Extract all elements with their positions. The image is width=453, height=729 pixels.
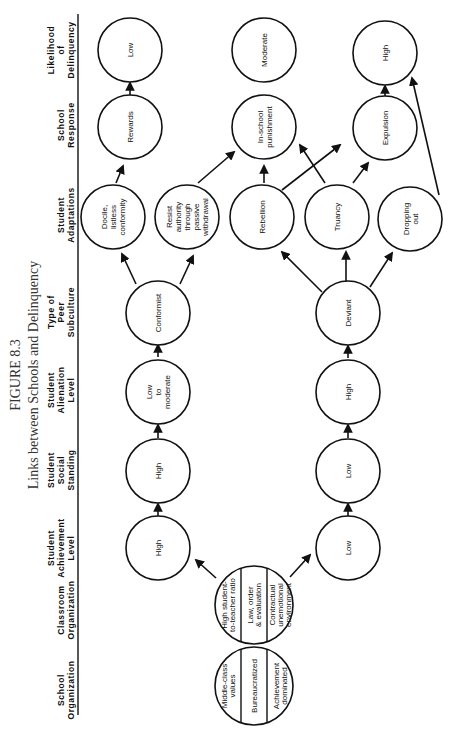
node-resp-expel: Expulsion bbox=[353, 96, 417, 160]
column-header-line: Student bbox=[46, 372, 56, 408]
column-header-line: Level bbox=[66, 378, 76, 403]
node-label: Rewards bbox=[126, 111, 135, 143]
figure-caption: Links between Schools and Delinquency bbox=[26, 261, 41, 490]
node-peer-dev: Deviant bbox=[316, 281, 380, 345]
node-adapt-resist: Resistauthoritythroughpassivewithdrawal bbox=[155, 185, 219, 249]
segment-label: Bureaucratized bbox=[250, 659, 259, 713]
node-resp-punish: In-schoolpunishment bbox=[232, 95, 296, 159]
node-label: Rebellion bbox=[258, 200, 267, 233]
node-label: High bbox=[154, 540, 163, 556]
segment-label: Law, order& evaluation bbox=[246, 583, 263, 627]
column-header-line: Subculture bbox=[66, 287, 76, 337]
node-label: Deviant bbox=[344, 299, 353, 327]
column-header-line: Level bbox=[66, 536, 76, 561]
column-header-alienation: StudentAlienationLevel bbox=[46, 366, 76, 413]
segment-label: Achievementdominated bbox=[272, 662, 289, 709]
node-label: High bbox=[344, 384, 353, 400]
column-header-classroom_org: ClassroomOrganization bbox=[56, 580, 76, 639]
column-header-line: Student bbox=[46, 452, 56, 488]
node-label: Conformist bbox=[154, 293, 163, 332]
column-header-likelihood: LikelihoodofDelinquency bbox=[46, 21, 76, 78]
node-soc-low: Low bbox=[316, 439, 380, 503]
node-adapt-truancy: Truancy bbox=[305, 185, 369, 249]
column-header-line: Student bbox=[56, 197, 66, 233]
schools-delinquency-diagram: FIGURE 8.3 Links between Schools and Del… bbox=[0, 0, 453, 729]
column-header-line: Type of bbox=[46, 295, 56, 329]
column-header-line: Response bbox=[66, 102, 76, 147]
column-header-line: Alienation bbox=[56, 366, 66, 413]
column-header-achievement: StudentAchievementLevel bbox=[46, 518, 76, 578]
node-adapt-docile: Docile,listlessconformity bbox=[81, 185, 145, 249]
node-adapt-rebel: Rebellion bbox=[230, 185, 294, 249]
node-school-org: Middle-classvaluesBureaucratizedAchievem… bbox=[215, 647, 293, 725]
node-like-low: Low bbox=[98, 18, 162, 82]
node-classroom-org: High student-to-teacher ratioLaw, order&… bbox=[215, 566, 293, 644]
node-like-mod: Moderate bbox=[232, 18, 296, 82]
column-header-line: of bbox=[56, 45, 66, 54]
nodes: HighLowHighLowLowtomoderateHighConformis… bbox=[81, 18, 442, 725]
column-header-social: StudentSocialStanding bbox=[46, 449, 76, 490]
node-soc-high: High bbox=[126, 439, 190, 503]
column-header-line: School bbox=[56, 674, 66, 706]
column-header-line: School bbox=[56, 109, 66, 141]
column-header-line: Adaptations bbox=[66, 187, 76, 243]
column-header-line: Likelihood bbox=[46, 26, 56, 75]
node-label: High bbox=[154, 463, 163, 479]
column-header-line: Organization bbox=[66, 660, 76, 719]
node-resp-rewards: Rewards bbox=[98, 95, 162, 159]
column-header-line: Classroom bbox=[56, 585, 66, 634]
column-header-response: SchoolResponse bbox=[56, 102, 76, 147]
column-header-line: Standing bbox=[66, 449, 76, 490]
column-header-line: Achievement bbox=[56, 518, 66, 578]
node-label: Truancy bbox=[333, 203, 342, 232]
column-header-line: Delinquency bbox=[66, 21, 76, 78]
column-header-line: Social bbox=[56, 456, 66, 485]
node-label: Low bbox=[126, 42, 135, 57]
column-header-line: Peer bbox=[56, 301, 66, 322]
column-header-adaptations: StudentAdaptations bbox=[56, 187, 76, 243]
node-label: Low bbox=[344, 540, 353, 555]
node-label: Expulsion bbox=[381, 111, 390, 146]
node-label: High bbox=[381, 45, 390, 61]
node-ach-high: High bbox=[126, 516, 190, 580]
column-header-line: Student bbox=[46, 530, 56, 566]
node-label: In-schoolpunishment bbox=[256, 106, 274, 148]
node-label: Low bbox=[344, 463, 353, 478]
column-header-school_org: SchoolOrganization bbox=[56, 660, 76, 719]
node-like-high: High bbox=[353, 21, 417, 85]
node-adapt-drop: Droppingout bbox=[378, 187, 442, 251]
column-headers: SchoolOrganizationClassroomOrganizationS… bbox=[46, 21, 76, 719]
column-header-line: Organization bbox=[66, 580, 76, 639]
segment-label: Contractualunemotionalenvironment bbox=[268, 582, 293, 627]
node-alien-lowmod: Lowtomoderate bbox=[126, 360, 190, 424]
figure-title: FIGURE 8.3 Links between Schools and Del… bbox=[8, 261, 41, 490]
figure-number: FIGURE 8.3 bbox=[8, 339, 23, 411]
column-header-peer: Type ofPeerSubculture bbox=[46, 287, 76, 337]
node-peer-conf: Conformist bbox=[126, 281, 190, 345]
node-ach-low: Low bbox=[316, 516, 380, 580]
segment-label: High student-to-teacher ratio bbox=[220, 578, 237, 632]
node-label: Moderate bbox=[260, 33, 269, 67]
node-alien-high: High bbox=[316, 360, 380, 424]
